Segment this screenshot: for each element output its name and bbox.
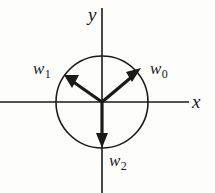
vector-w0-shaft <box>102 75 134 102</box>
vector-w2-label-base: w <box>109 151 120 170</box>
vector-w2-label-subscript: 2 <box>121 159 127 173</box>
vector-w1-shaft <box>72 81 102 102</box>
vector-w2-label: w2 <box>109 152 126 169</box>
vector-w0 <box>102 68 141 102</box>
vector-w0-label: w0 <box>150 60 167 77</box>
vector-w1-label: w1 <box>33 60 50 77</box>
vector-w1-label-base: w <box>33 59 44 78</box>
vector-w0-label-subscript: 0 <box>162 67 168 81</box>
vector-w2-arrowhead <box>96 133 108 148</box>
diagram-canvas <box>0 0 215 193</box>
x-axis-label: x <box>192 92 200 111</box>
vector-diagram-figure: y x w0 w1 w2 <box>0 0 215 193</box>
y-axis-label: y <box>88 5 96 24</box>
vector-w1 <box>64 75 102 102</box>
vector-w1-label-subscript: 1 <box>45 67 51 81</box>
vector-w0-label-base: w <box>150 59 161 78</box>
vector-w2 <box>96 102 108 148</box>
